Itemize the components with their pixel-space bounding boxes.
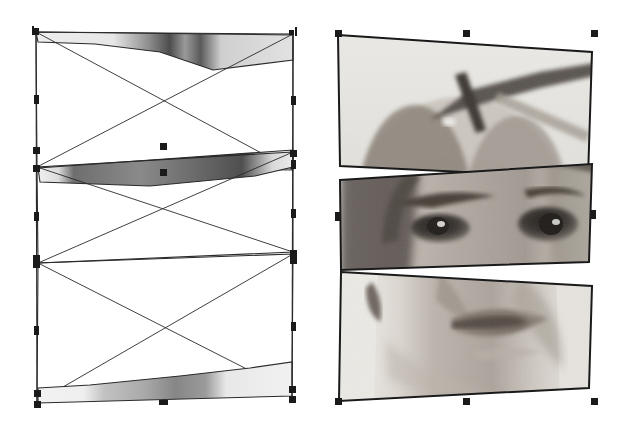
- handle-e-mid-top[interactable]: [291, 96, 296, 105]
- handle-sw[interactable]: [335, 398, 342, 405]
- handle-s-mid[interactable]: [159, 400, 168, 405]
- handle-e-mid[interactable]: [591, 210, 596, 219]
- wire-sliver-slice-0: [36, 32, 293, 70]
- handle-e-slice2-tr[interactable]: [290, 257, 297, 264]
- handle-w-slice0-bl[interactable]: [33, 147, 40, 154]
- handle-w-lower[interactable]: [34, 326, 39, 335]
- handle-w-slice2-tl[interactable]: [33, 261, 40, 268]
- handle-ne[interactable]: [289, 30, 294, 35]
- handle-e-lower[interactable]: [291, 322, 296, 331]
- handle-n-slice1-mid[interactable]: [160, 143, 167, 150]
- handle-sw-outer[interactable]: [34, 401, 41, 408]
- handle-nw[interactable]: [335, 30, 342, 37]
- handle-se[interactable]: [289, 386, 296, 393]
- handle-e-slice1-br[interactable]: [290, 250, 297, 257]
- preview-raster-canvas: [315, 0, 629, 435]
- preview-panel[interactable]: [315, 0, 629, 435]
- preview-band-bottom[interactable]: [330, 265, 605, 410]
- handle-ne[interactable]: [591, 30, 598, 37]
- handle-se-outer[interactable]: [289, 396, 296, 403]
- handle-w-mid-bottom[interactable]: [34, 212, 39, 221]
- editor-canvas: [0, 0, 629, 435]
- handle-n-tick-left[interactable]: [32, 26, 34, 35]
- handle-e-slice0-br[interactable]: [290, 150, 297, 157]
- handle-e-slice1-tr[interactable]: [291, 160, 296, 169]
- handle-w-mid[interactable]: [335, 212, 340, 221]
- handle-w-slice1-tl[interactable]: [33, 165, 40, 172]
- handle-w-mid-top[interactable]: [34, 95, 39, 104]
- handle-s-mid[interactable]: [463, 398, 470, 405]
- handle-se[interactable]: [591, 398, 598, 405]
- wireframe-panel[interactable]: [0, 0, 314, 435]
- handle-e-mid-bottom[interactable]: [291, 209, 296, 218]
- handle-ne-tick[interactable]: [295, 27, 297, 36]
- wire-sliver-slice-2: [38, 362, 292, 403]
- handle-s-slice1-mid[interactable]: [160, 169, 167, 176]
- wire-sliver-slice-1: [38, 150, 293, 186]
- handle-n-mid[interactable]: [463, 30, 470, 37]
- handle-sw[interactable]: [34, 390, 41, 397]
- wireframe-vector-canvas: [0, 0, 314, 435]
